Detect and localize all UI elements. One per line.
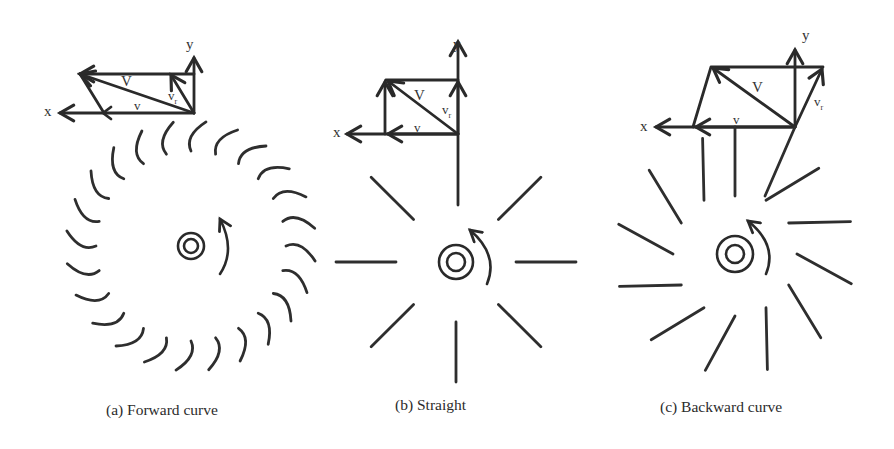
hub-inner-circle [447,253,465,271]
forward-curved-blade [91,171,109,199]
fan-blade-diagram-figure: y x V v vr y x V v vr y x V v vr (a) For… [0,0,894,449]
hub-c [717,236,753,272]
panel-a-forward-curve [60,58,315,370]
resultant-label: V [414,88,425,103]
relative-label: vr [814,95,823,112]
diagram-canvas [0,0,894,449]
forward-curved-blade [209,338,220,370]
hub-outer-circle [717,236,753,272]
x-axis-label: x [333,125,341,140]
forward-curved-blade [162,122,173,154]
impeller-a [67,122,315,370]
hub-a [178,233,204,259]
forward-curved-blade [176,341,193,370]
forward-curved-blade [258,167,289,178]
resultant-vector [713,68,795,127]
panel-b-straight [336,42,576,382]
hub-inner-circle [184,239,198,253]
hub-outer-circle [439,245,473,279]
hub-inner-circle [726,245,744,263]
forward-curved-blade [215,130,237,154]
relative-label: vr [442,103,451,120]
x-axis-label: x [640,119,648,134]
tangential-label: v [733,113,740,126]
forward-curved-blade [273,294,291,322]
hub-b [439,245,473,279]
forward-curved-blade [75,199,99,221]
forward-curved-blade [283,270,307,292]
forward-curved-blade [273,191,306,198]
tangential-label: v [414,121,421,134]
caption-straight: (b) Straight [395,396,466,414]
forward-curved-blade [283,217,315,228]
y-axis-label: y [453,37,461,52]
backward-blade [789,222,851,223]
forward-curved-blade [93,313,124,324]
relative-label-sub: r [821,103,824,112]
rotation-arrow-icon [220,219,228,274]
forward-curved-blade [239,146,267,164]
backward-blade [619,224,673,254]
resultant-label: V [121,74,132,89]
caption-forward-curve: (a) Forward curve [106,401,218,419]
backward-blade [705,316,735,370]
relative-label: vr [168,89,177,106]
y-axis-label: y [802,28,810,43]
straight-blade [371,177,413,219]
backward-blade [649,170,681,223]
forward-curved-blade [67,231,96,248]
forward-curved-blade [67,264,99,275]
forward-curved-blade [136,131,143,164]
caption-backward-curve: (c) Backward curve [660,398,782,416]
y-axis-label: y [186,37,194,52]
backward-blade [797,254,851,284]
relative-label-sub: r [175,97,178,106]
tangential-label: v [134,99,141,112]
x-axis-label: x [44,104,52,119]
forward-curved-blade [112,148,123,179]
impeller-c [619,127,852,370]
forward-curved-blade [286,244,315,261]
velocity-triangle-b [347,42,458,205]
backward-blade [703,139,704,201]
backward-blade [620,285,682,286]
parallelogram-side [693,67,711,127]
forward-curved-blade [116,328,144,346]
straight-blade [371,304,413,346]
forward-curved-blade [144,338,166,362]
forward-curved-blade [189,122,206,151]
straight-blade [498,304,540,346]
backward-blade [789,285,821,338]
forward-curved-blade [239,328,246,361]
forward-curved-blade [76,294,109,301]
backward-blade [766,308,767,370]
backward-blade [651,308,704,340]
forward-curved-blade [258,313,269,344]
straight-blade [498,177,540,219]
hub-outer-circle [178,233,204,259]
relative-label-sub: r [449,111,452,120]
resultant-label: V [752,80,763,95]
